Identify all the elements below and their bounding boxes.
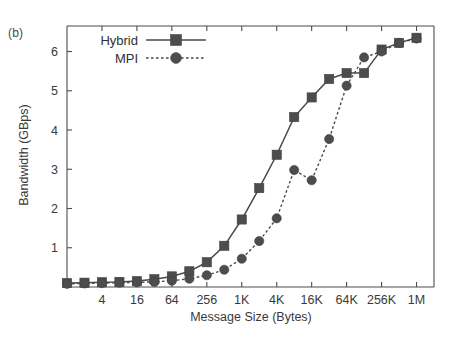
data-point-marker-mpi [394,38,403,47]
x-tick-label: 16 [130,293,144,307]
data-point-marker-mpi [307,176,316,185]
data-point-marker-hybrid [359,68,368,77]
data-point-marker-mpi [80,279,89,288]
data-point-marker-mpi [115,278,124,287]
y-tick-label: 5 [51,84,58,98]
x-tick-label: 4 [98,293,105,307]
data-point-marker-mpi [185,274,194,283]
legend-label-hybrid: Hybrid [100,33,138,48]
x-tick-label: 16K [301,293,324,307]
data-point-marker-mpi [255,236,264,245]
data-point-marker-mpi [359,53,368,62]
data-point-marker-hybrid [272,150,281,159]
data-point-marker-mpi [377,47,386,56]
data-point-marker-mpi [290,165,299,174]
data-point-marker-hybrid [220,241,229,250]
chart-plot-area: 416642561K4K16K64K256K1M 123456 HybridMP… [0,0,458,337]
data-point-marker-hybrid [342,68,351,77]
x-tick-label: 1K [234,293,250,307]
x-tick-label: 256 [196,293,217,307]
y-tick-label: 6 [51,45,58,59]
legend-label-mpi: MPI [115,51,138,66]
x-tick-label: 4K [269,293,285,307]
data-point-marker-hybrid [237,215,246,224]
legend-square-marker [171,35,182,46]
data-point-marker-hybrid [325,74,334,83]
data-series [62,33,421,288]
data-point-marker-mpi [325,134,334,143]
data-point-marker-mpi [272,214,281,223]
x-axis-ticks: 416642561K4K16K64K256K1M [98,26,425,307]
y-tick-label: 4 [51,124,58,138]
y-tick-label: 1 [51,241,58,255]
data-point-marker-mpi [342,81,351,90]
data-point-marker-mpi [220,265,229,274]
data-point-marker-mpi [167,276,176,285]
chart-legend: HybridMPI [100,33,206,66]
data-point-marker-hybrid [202,258,211,267]
y-tick-label: 3 [51,163,58,177]
x-tick-label: 64 [165,293,179,307]
data-point-marker-mpi [412,34,421,43]
x-tick-label: 256K [367,293,397,307]
data-point-marker-hybrid [255,183,264,192]
data-point-marker-mpi [62,279,71,288]
figure-panel: (b) Bandwidth (GBps) Message Size (Bytes… [0,0,458,337]
data-point-marker-hybrid [307,93,316,102]
data-point-marker-mpi [150,277,159,286]
data-point-marker-mpi [132,278,141,287]
data-point-marker-mpi [97,278,106,287]
data-point-marker-hybrid [290,112,299,121]
y-tick-label: 2 [51,202,58,216]
data-point-marker-mpi [202,271,211,280]
x-tick-label: 64K [335,293,358,307]
data-point-marker-mpi [237,254,246,263]
legend-circle-marker [171,53,182,64]
y-axis-ticks: 123456 [51,45,72,255]
x-tick-label: 1M [408,293,425,307]
